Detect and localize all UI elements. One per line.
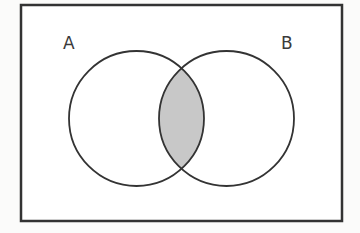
set-a-label: A (63, 35, 75, 52)
set-b-label: B (281, 35, 293, 52)
venn-diagram-canvas (0, 0, 360, 233)
venn-diagram: A B (0, 0, 360, 233)
